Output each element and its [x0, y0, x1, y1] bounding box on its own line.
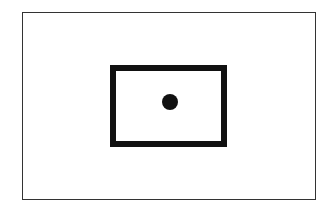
center-dot	[162, 94, 178, 110]
